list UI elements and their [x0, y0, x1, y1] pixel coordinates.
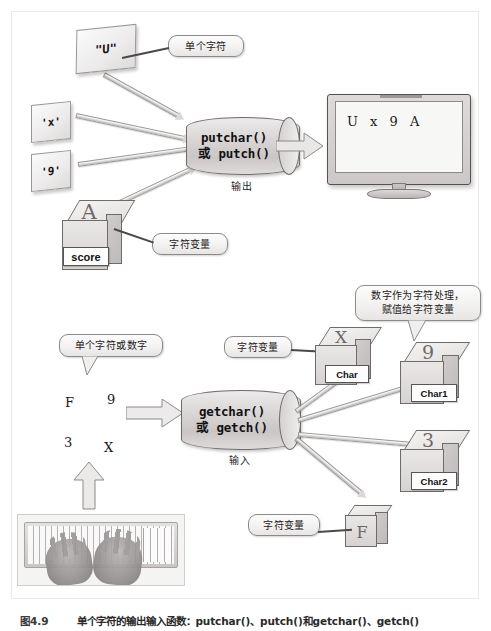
variable-box-char: X Char	[315, 327, 389, 389]
keyboard-numpad	[143, 528, 172, 562]
figure-number: 图4.9	[20, 613, 49, 628]
process-getchar-text: getchar() 或 getch()	[182, 391, 282, 449]
variable-box-char2: 3 Char2	[400, 430, 480, 496]
flow-rod-x	[75, 113, 186, 141]
typed-char-3: 3	[64, 435, 72, 450]
callout-digit-as-char: 数字作为字符处理， 赋值给字符变量	[355, 285, 481, 321]
arrow-right-icon	[126, 398, 184, 428]
literal-card-u-text: "U"	[95, 41, 117, 57]
monitor: U x 9 A	[327, 94, 471, 185]
right-hand	[91, 534, 144, 586]
literal-card-u: "U"	[76, 24, 137, 74]
process-putchar-line1: putchar()	[201, 130, 267, 146]
monitor-screen: U x 9 A	[335, 101, 463, 173]
monitor-base	[367, 189, 431, 199]
variable-box-f: F	[345, 505, 403, 553]
callout-char-variable-output: 字符变量	[152, 233, 228, 255]
arrow-to-monitor-icon	[276, 131, 324, 161]
variable-box-char1: 9 Char1	[400, 342, 480, 408]
callout-tail-icon	[82, 356, 102, 376]
typed-char-X: X	[104, 440, 113, 455]
process-getchar-label: 输入	[181, 452, 299, 467]
callout-char-variable-input-bottom: 字符变量	[248, 514, 320, 536]
process-putchar-line2: 或 putch()	[198, 146, 269, 162]
variable-box-char-label: Char	[325, 365, 369, 383]
flow-rod-u	[103, 72, 181, 118]
callout-tail-digit-as-char	[406, 320, 428, 342]
arrow-to-getchar	[126, 398, 184, 428]
process-putchar-label: 输出	[186, 178, 298, 193]
figure-caption: 图4.9 单个字符的输出输入函数：putchar()、putch()和getch…	[20, 613, 480, 628]
callout-single-character-text: 单个字符	[185, 40, 227, 53]
figure-canvas: "U" 'x' '9' 单个字符 A score 字符变量 putchar() …	[0, 0, 491, 631]
variable-box-char2-label: Char2	[411, 472, 457, 490]
variable-box-score: A score	[62, 200, 138, 272]
flow-rod-9	[78, 146, 190, 167]
figure-caption-text: 单个字符的输出输入函数：putchar()、putch()和getchar()、…	[77, 613, 419, 628]
callout-digit-as-char-line2: 赋值给字符变量	[382, 303, 455, 317]
monitor-bezel-strip	[380, 95, 422, 98]
literal-card-x: 'x'	[31, 101, 71, 143]
process-getchar: getchar() 或 getch()	[181, 390, 301, 450]
variable-box-score-label: score	[63, 247, 109, 266]
literal-card-9: '9'	[31, 150, 71, 192]
arrow-to-monitor	[276, 131, 324, 161]
variable-box-char1-label: Char1	[411, 384, 457, 402]
callout-tail-icon	[406, 320, 428, 342]
callout-digit-as-char-line1: 数字作为字符处理，	[371, 289, 465, 303]
arrow-up-icon	[72, 462, 106, 510]
callout-single-char-or-digit: 单个字符或数字	[59, 334, 163, 357]
callout-char-variable-input-top: 字符变量	[224, 336, 292, 358]
variable-box-f-front	[345, 515, 377, 547]
literal-card-x-text: 'x'	[41, 114, 61, 129]
process-putchar-text: putchar() 或 putch()	[187, 118, 281, 174]
flow-rod-char1	[297, 386, 404, 423]
callout-single-char-or-digit-text: 单个字符或数字	[75, 339, 148, 352]
callout-char-variable-input-bottom-text: 字符变量	[263, 519, 305, 532]
keyboard-photo	[17, 514, 185, 586]
callout-tail-single-char-or-digit	[82, 356, 102, 376]
flow-rod-char2	[298, 432, 414, 447]
flow-rod-f	[294, 437, 363, 496]
process-getchar-line2: 或 getch()	[196, 420, 267, 436]
process-getchar-line1: getchar()	[199, 404, 265, 420]
arrow-from-keyboard	[72, 462, 106, 510]
typed-char-F: F	[65, 395, 74, 410]
callout-char-variable-output-text: 字符变量	[169, 238, 211, 251]
monitor-display-text: U x 9 A	[347, 114, 423, 129]
typed-char-9: 9	[107, 392, 115, 407]
callout-single-character: 单个字符	[168, 35, 244, 57]
callout-char-variable-input-top-text: 字符变量	[237, 341, 279, 354]
literal-card-9-text: '9'	[41, 163, 61, 178]
